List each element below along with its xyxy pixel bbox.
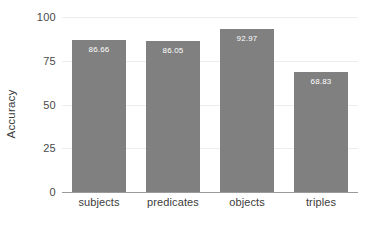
bar-value-label: 68.83 [294, 77, 348, 86]
y-tick-label: 0 [12, 186, 56, 198]
y-tick-label: 75 [12, 55, 56, 67]
bar-value-label: 86.66 [72, 45, 126, 54]
x-axis-tick-labels: subjectspredicatesobjectstriples [62, 196, 358, 216]
x-axis-line [62, 192, 358, 194]
bar-subjects[interactable]: 86.66 [72, 40, 126, 192]
bar-predicates[interactable]: 86.05 [146, 41, 200, 192]
x-tick-label-objects: objects [210, 196, 284, 208]
bar-value-label: 86.05 [146, 46, 200, 55]
bar-chart: Accuracy 0255075100 86.6686.0592.9768.83… [0, 0, 374, 228]
bar-objects[interactable]: 92.97 [220, 29, 274, 192]
x-tick-label-triples: triples [284, 196, 358, 208]
y-axis-tick-labels: 0255075100 [0, 17, 56, 192]
bar-triples[interactable]: 68.83 [294, 72, 348, 192]
bar-value-label: 92.97 [220, 34, 274, 43]
y-tick-label: 25 [12, 142, 56, 154]
gridline [62, 17, 358, 18]
plot-area: 86.6686.0592.9768.83 [62, 17, 358, 192]
y-tick-label: 100 [12, 11, 56, 23]
y-tick-label: 50 [12, 99, 56, 111]
x-tick-label-predicates: predicates [136, 196, 210, 208]
x-tick-label-subjects: subjects [62, 196, 136, 208]
